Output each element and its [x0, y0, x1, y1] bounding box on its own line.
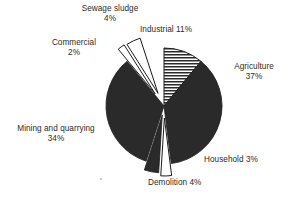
- slice-label-commercial-name: Commercial: [35, 38, 113, 48]
- slice-label-industrial: Industrial 11%: [140, 25, 218, 35]
- slice-label-household: Household 3%: [204, 155, 286, 165]
- slice-label-mining-and-quarrying-value: 34%: [6, 134, 106, 144]
- slice-label-commercial: Commercial 2%: [35, 38, 113, 58]
- slice-label-household-text: Household 3%: [204, 155, 286, 165]
- slice-label-agriculture: Agriculture 37%: [222, 62, 286, 82]
- pie-chart-figure: Industrial 11%Agriculture 37%Household 3…: [0, 0, 288, 201]
- slice-label-mining-and-quarrying-name: Mining and quarrying: [6, 124, 106, 134]
- slice-label-agriculture-name: Agriculture: [222, 62, 286, 72]
- slice-label-sewage-sludge-name: Sewage sludge: [60, 4, 160, 14]
- scan-speck: [100, 178, 102, 180]
- slice-label-commercial-value: 2%: [35, 48, 113, 58]
- slice-label-mining-and-quarrying: Mining and quarrying 34%: [6, 124, 106, 144]
- slice-label-sewage-sludge-value: 4%: [60, 14, 160, 24]
- slice-label-sewage-sludge: Sewage sludge 4%: [60, 4, 160, 24]
- slice-label-industrial-text: Industrial 11%: [140, 25, 218, 35]
- slice-label-demolition-text: Demolition 4%: [148, 178, 238, 188]
- slice-label-agriculture-value: 37%: [222, 72, 286, 82]
- slice-label-demolition: Demolition 4%: [148, 178, 238, 188]
